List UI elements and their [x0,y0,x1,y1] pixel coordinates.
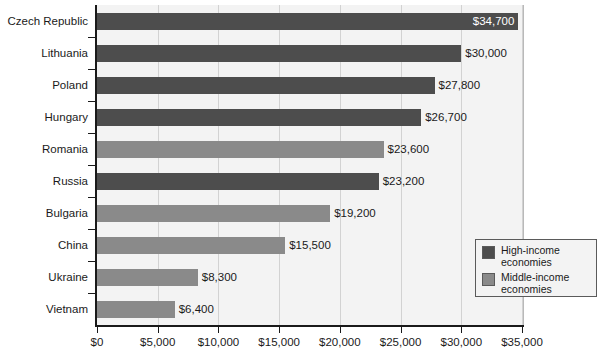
bar[interactable] [97,301,175,318]
x-axis-tick [218,327,219,333]
x-axis-tick-label: $25,000 [380,336,422,348]
x-axis-tick-label: $35,000 [501,336,543,348]
bar-row: $27,800 [97,77,522,94]
x-axis-tick [340,327,341,333]
legend-label-high-income: High-incomeeconomies [501,245,560,268]
bar[interactable] [97,205,330,222]
legend-label-middle-income: Middle-incomeeconomies [501,272,569,295]
bar-row: $23,600 [97,141,522,158]
bar-value-label: $8,300 [202,272,237,284]
bar-value-label: $23,200 [383,176,425,188]
bar-value-label: $26,700 [425,112,467,124]
y-axis-tick [88,197,95,198]
x-axis-tick-label: $30,000 [440,336,482,348]
y-axis-tick [88,229,95,230]
category-label: Russia [0,175,88,187]
x-axis-tick [401,327,402,333]
bar[interactable] [97,13,518,30]
bar[interactable] [97,141,384,158]
legend-swatch-middle-income-icon [482,273,495,286]
bar-value-label: $27,800 [439,80,481,92]
legend-swatch-high-income-icon [482,246,495,259]
x-axis-tick-label: $15,000 [258,336,300,348]
bar[interactable] [97,109,421,126]
x-axis-tick-label: $0 [91,336,104,348]
bar-row: $34,700 [97,13,522,30]
bar[interactable] [97,269,198,286]
y-axis-tick [88,261,95,262]
bar-row: $23,200 [97,173,522,190]
bar-value-label: $30,000 [465,48,507,60]
bar[interactable] [97,237,285,254]
bar-row: $26,700 [97,109,522,126]
bar-row: $15,500 [97,237,522,254]
bar-value-label: $19,200 [334,208,376,220]
x-axis-tick [97,327,98,333]
x-axis-tick [522,327,523,333]
category-label: China [0,239,88,251]
category-label: Czech Republic [0,15,88,27]
legend-item-high-income: High-incomeeconomies [482,245,591,268]
bar-row: $30,000 [97,45,522,62]
category-axis-labels: Czech RepublicLithuaniaPolandHungaryRoma… [0,5,88,325]
bar[interactable] [97,77,435,94]
bar-value-label: $34,700 [473,16,515,28]
x-axis-tick [158,327,159,333]
plot-area: $34,700$30,000$27,800$26,700$23,600$23,2… [97,5,524,325]
x-axis-tick [461,327,462,333]
y-axis-tick [88,165,95,166]
bar-value-label: $23,600 [388,144,430,156]
bar[interactable] [97,45,461,62]
x-axis-line [95,325,524,327]
bar[interactable] [97,173,379,190]
category-label: Romania [0,143,88,155]
x-axis-tick-label: $20,000 [319,336,361,348]
x-axis-tick [279,327,280,333]
y-axis-tick [88,69,95,70]
category-label: Poland [0,79,88,91]
legend: High-incomeeconomies Middle-incomeeconom… [475,239,597,297]
bar-row: $19,200 [97,205,522,222]
x-axis-tick-label: $5,000 [140,336,175,348]
bar-value-label: $6,400 [179,304,214,316]
y-axis-tick [88,293,95,294]
category-label: Lithuania [0,47,88,59]
bar-value-label: $15,500 [289,240,331,252]
y-axis-tick [88,37,95,38]
category-label: Vietnam [0,303,88,315]
bar-row: $8,300 [97,269,522,286]
category-label: Bulgaria [0,207,88,219]
category-label: Ukraine [0,271,88,283]
y-axis-tick [88,133,95,134]
y-axis-tick [88,101,95,102]
legend-item-middle-income: Middle-incomeeconomies [482,272,591,295]
x-axis-tick-label: $10,000 [198,336,240,348]
bar-row: $6,400 [97,301,522,318]
category-label: Hungary [0,111,88,123]
